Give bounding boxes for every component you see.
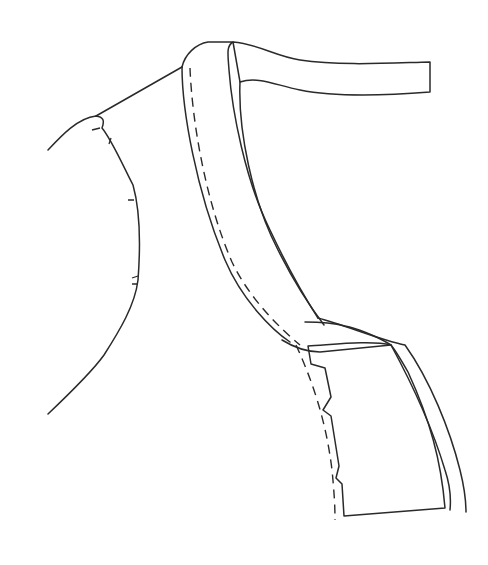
binding-outer-edge	[182, 42, 318, 318]
binding-inner-edge	[182, 67, 290, 342]
notch-marks	[92, 128, 138, 284]
binding-right-edge	[240, 82, 324, 325]
sewing-diagram	[0, 0, 488, 565]
wrong-side-strap	[233, 42, 430, 95]
facing-panel	[308, 343, 445, 516]
armhole-outline	[48, 116, 140, 414]
shoulder-seam-line	[96, 67, 182, 116]
stitch-line-lower	[296, 345, 335, 520]
